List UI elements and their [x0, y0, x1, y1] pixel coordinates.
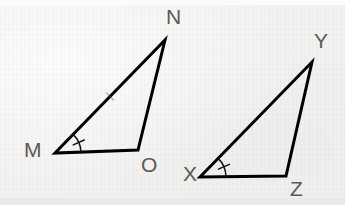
triangle-mno — [55, 40, 165, 153]
triangle-xyz-outline — [200, 62, 312, 177]
geometry-figure: M N O X Y Z — [0, 0, 345, 205]
vertex-label-z: Z — [290, 178, 303, 199]
vertex-label-o: O — [141, 154, 157, 175]
vertex-label-n: N — [166, 6, 181, 27]
geometry-canvas — [0, 0, 345, 205]
vertex-label-y: Y — [314, 30, 328, 51]
vertex-label-m: M — [24, 139, 42, 160]
vertex-label-x: X — [183, 163, 197, 184]
triangle-xyz — [200, 62, 312, 177]
